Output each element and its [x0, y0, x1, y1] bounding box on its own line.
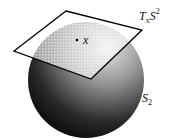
tangent-plane-label: TxS2: [139, 9, 160, 25]
tangent-plane-diagram: x TxS2 S2: [0, 0, 172, 139]
point-x: [76, 39, 79, 42]
sphere-label: S2: [142, 92, 152, 107]
point-label: x: [83, 34, 88, 46]
